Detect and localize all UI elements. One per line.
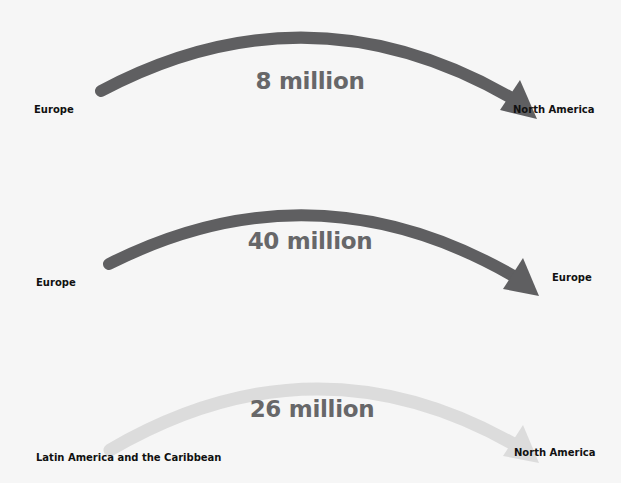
destination-label: North America: [514, 447, 596, 458]
flow-amount: 26 million: [250, 396, 375, 422]
origin-label: Latin America and the Caribbean: [36, 452, 221, 463]
